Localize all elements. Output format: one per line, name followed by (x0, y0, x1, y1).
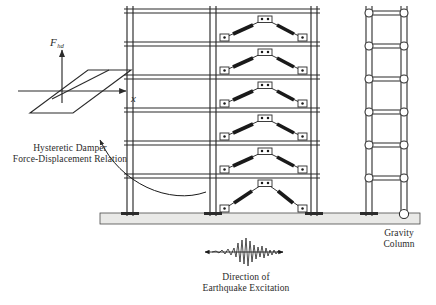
force-axis-symbol: F (50, 36, 57, 48)
hysteresis-plot (18, 50, 131, 113)
gravity-base-plate (360, 212, 378, 215)
gravity-beams (370, 11, 404, 180)
force-axis-label: Fhd (50, 36, 64, 49)
chevron-brace-story-1 (220, 180, 307, 212)
displacement-axis-label: x (131, 92, 136, 105)
chevron-brace-story-4 (220, 82, 307, 107)
hysteretic-damper-caption-line1: Hysteretic Damper (8, 143, 132, 154)
gusset-plates (220, 49, 307, 74)
earthquake-excitation-trace (205, 238, 283, 266)
gusset-plates (220, 180, 307, 212)
earthquake-excitation-caption: Direction of Earthquake Excitation (185, 272, 307, 294)
gusset-plates (220, 16, 307, 41)
hysteresis-branch (52, 70, 109, 99)
figure-canvas: Fhd x Hysteretic Damper Force-Displaceme… (0, 0, 436, 305)
gusset-plates (220, 115, 307, 140)
force-axis-subscript: hd (57, 42, 64, 49)
hysteretic-damper-caption-line2: Force-Displacement Relation (8, 154, 132, 165)
gravity-column-caption: Gravity Column (366, 228, 432, 250)
chevron-brace-story-3 (220, 115, 307, 140)
earthquake-excitation-caption-line1: Direction of (185, 272, 307, 283)
gravity-frame (360, 6, 409, 219)
chevron-brace-story-5 (220, 49, 307, 74)
gusset-plates (220, 148, 307, 173)
earthquake-excitation-caption-line2: Earthquake Excitation (185, 283, 307, 294)
chevron-brace-story-2 (220, 148, 307, 173)
gravity-column-caption-line2: Column (366, 239, 432, 250)
gusset-plates (220, 82, 307, 107)
hysteretic-damper-caption: Hysteretic Damper Force-Displacement Rel… (8, 143, 132, 165)
gravity-column-caption-line1: Gravity (366, 228, 432, 239)
chevron-brace-story-6 (220, 16, 307, 41)
